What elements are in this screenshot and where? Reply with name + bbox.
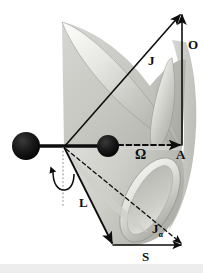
rotation-arrow-icon <box>50 167 74 190</box>
cone-precession-diagram <box>0 0 203 273</box>
label-L: L <box>79 196 88 209</box>
cone-surfaces <box>62 22 196 252</box>
label-omega: Ω <box>135 148 146 162</box>
label-O: O <box>188 38 198 51</box>
figure-canvas: J O Ω A L Jα S <box>0 0 203 273</box>
label-J-alpha-subscript: α <box>159 230 163 239</box>
avatar-sphere-primary <box>12 132 40 160</box>
bottom-band <box>0 264 203 273</box>
label-J: J <box>148 54 155 67</box>
label-S: S <box>142 250 149 263</box>
label-A: A <box>176 148 185 161</box>
label-J-alpha: Jα <box>152 222 163 239</box>
avatar-sphere-secondary <box>97 135 119 157</box>
